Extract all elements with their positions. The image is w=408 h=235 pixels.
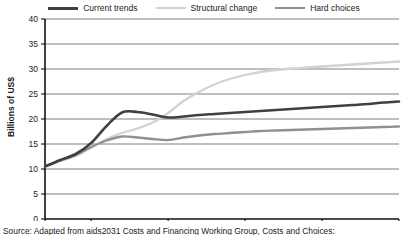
legend-label-current-trends: Current trends: [83, 3, 137, 13]
y-tick-label: 15: [29, 139, 39, 149]
y-axis-ticks: 0510152025303540: [29, 16, 45, 221]
chart-figure: Current trends Structural change Hard ch…: [0, 0, 408, 235]
y-tick-label: 35: [29, 39, 39, 49]
legend-swatch-structural-change: [156, 7, 186, 9]
legend-item-structural-change: Structural change: [156, 3, 258, 13]
line-chart-svg: 0510152025303540 20072010201520202025203…: [0, 16, 408, 221]
y-tick-label: 20: [29, 114, 39, 124]
data-series: [45, 62, 399, 168]
chart-legend: Current trends Structural change Hard ch…: [0, 0, 408, 16]
legend-label-structural-change: Structural change: [191, 3, 258, 13]
plot-area: Billions of US$ 0510152025303540 2007201…: [0, 16, 408, 221]
y-tick-label: 30: [29, 64, 39, 74]
series-line: [45, 127, 399, 167]
legend-item-hard-choices: Hard choices: [275, 3, 360, 13]
legend-swatch-current-trends: [48, 7, 78, 10]
y-tick-label: 5: [33, 189, 38, 199]
y-tick-label: 40: [29, 16, 39, 24]
y-tick-label: 25: [29, 89, 39, 99]
legend-item-current-trends: Current trends: [48, 3, 137, 13]
legend-swatch-hard-choices: [275, 7, 305, 9]
y-tick-label: 0: [33, 214, 38, 221]
legend-label-hard-choices: Hard choices: [310, 3, 360, 13]
y-tick-label: 10: [29, 164, 39, 174]
source-caption: Source: Adapted from aids2031 Costs and …: [3, 226, 407, 235]
